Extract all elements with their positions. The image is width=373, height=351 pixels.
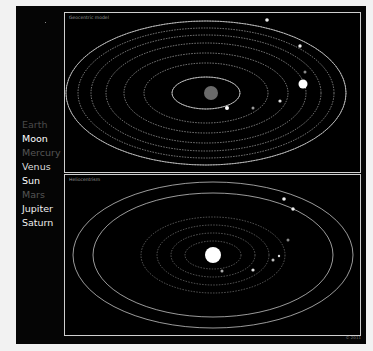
jupiter-icon <box>291 207 294 210</box>
geocentric-orbits <box>65 13 360 172</box>
venus-icon <box>278 99 281 102</box>
moon-icon <box>225 106 229 110</box>
heliocentric-bodies <box>205 197 295 272</box>
legend-saturn: Saturn <box>22 216 64 230</box>
legend-mars: Mars <box>22 188 64 202</box>
legend-venus: Venus <box>22 160 64 174</box>
saturn-icon <box>282 197 286 201</box>
moon-icon <box>278 255 280 257</box>
geocentric-bodies <box>204 18 308 110</box>
earth-icon <box>204 86 218 100</box>
sun-icon <box>205 247 221 263</box>
jupiter-icon <box>298 44 301 47</box>
legend-mercury: Mercury <box>22 146 64 160</box>
legend-sun: Sun <box>22 174 64 188</box>
geocentric-panel: Geocentric model <box>64 12 361 173</box>
heliocentric-orbits <box>65 175 360 335</box>
mercury-icon <box>252 107 255 110</box>
body-legend: Earth Moon Mercury Venus Sun Mars Jupite… <box>22 118 64 230</box>
venus-icon <box>251 268 254 271</box>
legend-jupiter: Jupiter <box>22 202 64 216</box>
decorative-dot <box>45 22 46 23</box>
heliocentric-panel: Heliocentrism <box>64 174 361 336</box>
saturn-icon <box>265 18 269 22</box>
legend-moon: Moon <box>22 132 64 146</box>
credit-text: © 2011 <box>346 335 361 340</box>
sun-icon <box>299 80 308 89</box>
mars-icon <box>287 239 290 242</box>
earth-icon <box>272 259 275 262</box>
mars-icon <box>304 71 307 74</box>
legend-earth: Earth <box>22 118 64 132</box>
mercury-icon <box>221 270 224 273</box>
